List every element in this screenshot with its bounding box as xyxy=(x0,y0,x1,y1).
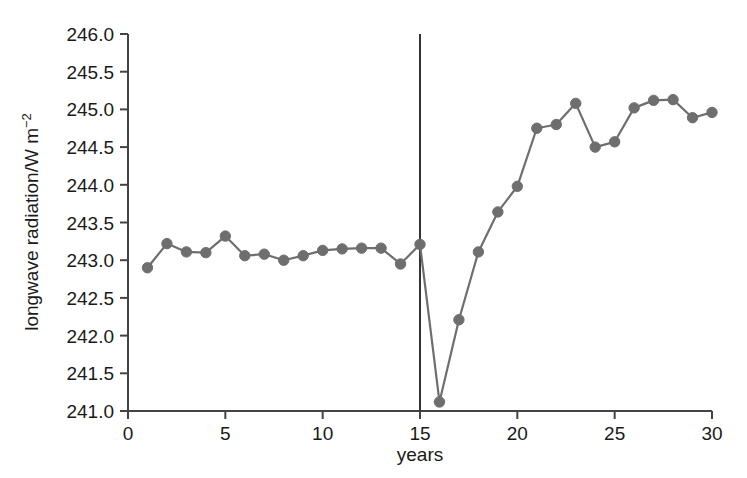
data-point xyxy=(434,397,444,407)
x-tick-label: 30 xyxy=(701,423,722,444)
x-tick-label: 5 xyxy=(220,423,231,444)
y-tick-label: 246.0 xyxy=(66,24,114,45)
x-tick-label: 0 xyxy=(123,423,134,444)
x-tick-label: 25 xyxy=(604,423,625,444)
y-tick-label: 243.0 xyxy=(66,250,114,271)
data-point xyxy=(201,247,211,257)
data-point xyxy=(629,103,639,113)
data-point xyxy=(668,94,678,104)
chart-figure: 241.0241.5242.0242.5243.0243.5244.0244.5… xyxy=(0,0,747,478)
y-tick-label: 244.0 xyxy=(66,175,114,196)
data-point xyxy=(395,259,405,269)
data-point xyxy=(512,181,522,191)
data-point xyxy=(181,247,191,257)
x-tick-label: 15 xyxy=(409,423,430,444)
data-point xyxy=(415,239,425,249)
data-point xyxy=(317,245,327,255)
line-chart: 241.0241.5242.0242.5243.0243.5244.0244.5… xyxy=(0,0,747,478)
data-point xyxy=(687,112,697,122)
data-point xyxy=(532,123,542,133)
data-point xyxy=(356,243,366,253)
x-tick-label: 10 xyxy=(312,423,333,444)
data-point xyxy=(279,255,289,265)
data-point xyxy=(162,238,172,248)
data-point xyxy=(707,107,717,117)
y-tick-label: 244.5 xyxy=(66,137,114,158)
data-point xyxy=(473,247,483,257)
y-tick-label: 242.0 xyxy=(66,326,114,347)
data-point xyxy=(609,137,619,147)
data-point xyxy=(376,243,386,253)
y-axis-label-exponent: −2 xyxy=(19,113,34,128)
y-tick-label: 245.0 xyxy=(66,99,114,120)
data-point xyxy=(220,231,230,241)
data-point xyxy=(240,250,250,260)
data-point xyxy=(493,207,503,217)
y-tick-label: 241.5 xyxy=(66,363,114,384)
x-axis-label: years xyxy=(397,444,443,465)
data-point xyxy=(648,95,658,105)
y-tick-label: 243.5 xyxy=(66,213,114,234)
data-point xyxy=(551,119,561,129)
data-point xyxy=(571,98,581,108)
y-axis-label: longwave radiation/W m−2 xyxy=(19,113,42,331)
data-point xyxy=(454,315,464,325)
x-tick-label: 20 xyxy=(507,423,528,444)
data-point xyxy=(298,250,308,260)
y-axis-label-base: longwave radiation/W m xyxy=(21,128,42,331)
data-point xyxy=(337,244,347,254)
y-tick-label: 242.5 xyxy=(66,288,114,309)
y-tick-label: 241.0 xyxy=(66,401,114,422)
data-point xyxy=(590,142,600,152)
data-point xyxy=(259,249,269,259)
y-tick-label: 245.5 xyxy=(66,62,114,83)
data-point xyxy=(142,263,152,273)
